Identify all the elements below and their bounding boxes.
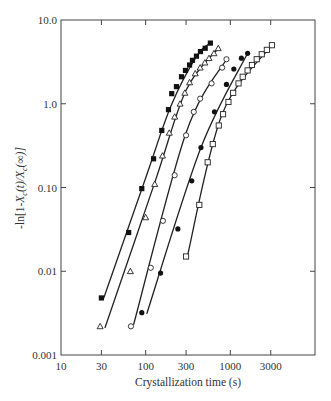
chart: 103010030010003000 0.0010.010.101.010.0 … (0, 0, 331, 401)
y-tick-label: 0.01 (38, 265, 57, 277)
data-point (264, 47, 269, 52)
data-point (175, 226, 180, 231)
y-tick-label: 0.001 (32, 349, 57, 361)
data-point (172, 173, 177, 178)
data-point (224, 82, 229, 87)
data-point (220, 112, 225, 117)
data-point (158, 271, 163, 276)
data-point (245, 68, 250, 73)
series-filled-square (99, 40, 213, 300)
data-point (151, 156, 156, 161)
data-point (183, 68, 188, 73)
data-point (239, 56, 244, 61)
data-point (182, 90, 188, 95)
data-point (215, 45, 221, 50)
data-point (197, 202, 202, 207)
data-point (240, 74, 245, 79)
data-point (160, 218, 165, 223)
data-point (128, 324, 133, 329)
data-point (259, 52, 264, 57)
data-point (245, 51, 250, 56)
data-series (97, 40, 274, 328)
data-point (210, 141, 215, 146)
data-point (205, 160, 210, 165)
data-point (231, 66, 236, 71)
y-tick-label: 1.0 (43, 98, 57, 110)
data-point (231, 90, 236, 95)
data-point (254, 57, 259, 62)
y-tick-label: 0.10 (38, 182, 58, 194)
y-axis-ticks: 0.0010.010.101.010.0 (32, 14, 315, 361)
data-point (208, 40, 213, 45)
x-tick-label: 300 (178, 360, 195, 372)
x-tick-label: 100 (137, 360, 154, 372)
data-point (198, 96, 203, 101)
data-point (194, 54, 199, 59)
data-point (166, 107, 171, 112)
data-point (209, 81, 214, 86)
y-tick-label: 10.0 (38, 14, 58, 26)
data-point (212, 109, 217, 114)
data-point (126, 230, 131, 235)
series-open-circle (128, 57, 229, 329)
data-point (152, 181, 158, 186)
data-point (169, 91, 174, 96)
data-point (203, 46, 208, 51)
data-point (236, 81, 241, 86)
data-point (139, 310, 144, 315)
x-axis-title: Crystallization time (s) (135, 376, 241, 389)
data-point (187, 62, 192, 67)
data-point (189, 178, 194, 183)
data-point (159, 128, 164, 133)
x-tick-label: 10 (56, 360, 68, 372)
data-point (99, 295, 104, 300)
data-point (139, 186, 144, 191)
data-point (198, 145, 203, 150)
data-point (148, 265, 153, 270)
data-point (216, 123, 221, 128)
data-point (97, 323, 103, 328)
data-point (249, 62, 254, 67)
data-point (183, 133, 188, 138)
data-point (224, 57, 229, 62)
y-axis-title: -ln[1-Xc(t)/Xc(∞)] (14, 147, 29, 229)
data-point (269, 43, 274, 48)
data-point (226, 99, 231, 104)
x-tick-label: 1000 (219, 360, 242, 372)
data-point (191, 109, 196, 114)
data-point (198, 49, 203, 54)
data-point (183, 254, 188, 259)
x-tick-label: 30 (96, 360, 108, 372)
data-point (127, 268, 133, 273)
x-tick-label: 3000 (260, 360, 283, 372)
data-point (174, 84, 179, 89)
data-point (179, 74, 184, 79)
data-point (220, 65, 225, 70)
data-point (177, 101, 183, 106)
